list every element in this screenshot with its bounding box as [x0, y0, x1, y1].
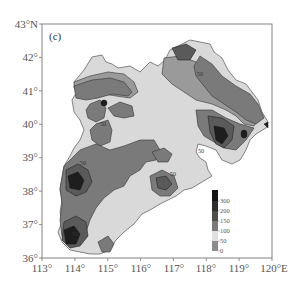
contour-label: 50 — [72, 231, 78, 237]
colorbar-segment — [212, 190, 218, 201]
contour-map-figure: 50 50 50 50 50 50 (c) 113° 114° 115° 116… — [0, 0, 300, 289]
colorbar-label: 300 — [220, 197, 230, 204]
x-tick-label: 117° — [164, 262, 185, 274]
colorbar-segment — [212, 221, 218, 231]
colorbar-label: 0 — [220, 247, 223, 254]
y-tick-label: 36° — [23, 252, 38, 264]
colorbar: 0 50 100 150 200 300 — [212, 190, 230, 254]
x-tick-labels: 113° 114° 115° 116° 117° 118° 119° 120°E — [32, 262, 288, 274]
y-tick-label: 39° — [23, 151, 38, 163]
x-tick-label: 118° — [196, 262, 217, 274]
y-tick-label: 43°N — [15, 18, 38, 30]
colorbar-segment — [212, 201, 218, 211]
x-axis — [42, 258, 272, 261]
x-tick-label: 120°E — [260, 262, 288, 274]
colorbar-segment — [212, 241, 218, 251]
x-tick-label: 115° — [98, 262, 119, 274]
x-tick-label: 116° — [131, 262, 152, 274]
y-tick-label: 41° — [23, 85, 38, 97]
x-tick-label: 114° — [65, 262, 86, 274]
colorbar-segment — [212, 231, 218, 241]
colorbar-label: 50 — [220, 237, 227, 244]
contour-label: 50 — [197, 71, 203, 77]
x-tick-label: 119° — [229, 262, 250, 274]
colorbar-label: 200 — [220, 207, 230, 214]
colorbar-segment — [212, 211, 218, 221]
contour-label: 50 — [100, 121, 106, 127]
colorbar-label: 100 — [220, 227, 230, 234]
contour-label: 50 — [170, 171, 176, 177]
y-tick-label: 42° — [23, 51, 38, 63]
colorbar-label: 150 — [220, 217, 230, 224]
contour-label: 50 — [198, 148, 204, 154]
y-tick-labels: 36° 37° 38° 39° 40° 41° 42° 43°N — [15, 18, 38, 264]
y-tick-label: 38° — [23, 185, 38, 197]
panel-label: (c) — [49, 30, 62, 43]
y-tick-label: 37° — [23, 218, 38, 230]
contour-label: 50 — [80, 160, 86, 166]
y-tick-label: 40° — [23, 118, 38, 130]
